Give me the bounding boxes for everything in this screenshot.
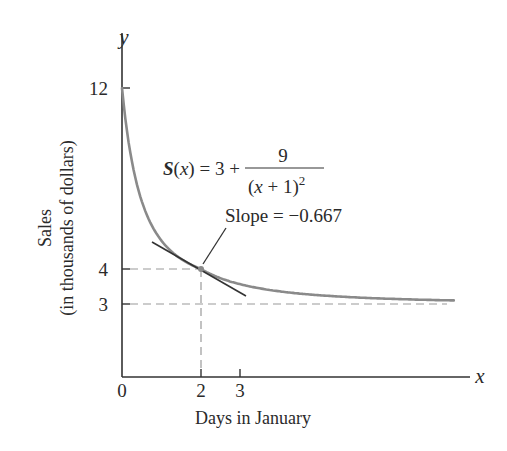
function-label-numerator: 9 [278,145,288,166]
function-label-lhs: S(x) = 3 + [163,158,240,180]
slope-annotation: Slope = −0.667 [225,205,342,226]
y-axis-label-line2: (in thousands of dollars) [57,140,78,315]
sales-chart: 12 4 3 0 2 3 y x Days in January Sales (… [0,0,507,451]
x-axis-label: Days in January [195,408,311,428]
y-axis-label-line1: Sales [35,209,55,247]
y-tick-label-3: 3 [99,294,109,315]
x-tick-label-2: 2 [196,380,206,401]
x-tick-label-3: 3 [235,380,245,401]
y-tick-label-12: 12 [89,78,108,99]
x-axis-symbol: x [474,364,485,388]
annotation-leader [203,228,226,264]
y-axis-symbol: y [117,25,129,49]
x-tick-label-0: 0 [117,380,127,401]
function-label-exponent: 2 [299,173,306,188]
function-label-denominator: (x + 1)2 [248,173,305,198]
tangent-point [198,266,204,272]
y-tick-label-4: 4 [99,259,109,280]
